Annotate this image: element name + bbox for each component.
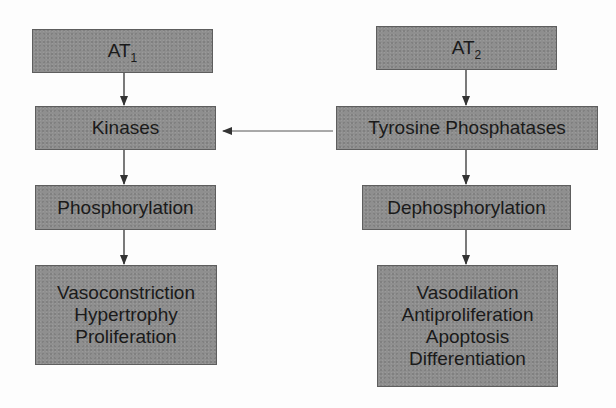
effect-line: Antiproliferation — [401, 304, 533, 326]
phosphorylation-box: Phosphorylation — [35, 185, 216, 230]
dephosphorylation-box: Dephosphorylation — [362, 185, 571, 230]
effect-line: Apoptosis — [426, 326, 509, 348]
at2-label: AT2 — [452, 37, 482, 59]
kinases-label: Kinases — [92, 117, 160, 139]
effect-line: Vasodilation — [416, 282, 518, 304]
effect-line: Differentiation — [409, 348, 526, 370]
at1-receptor-box: AT1 — [32, 29, 213, 73]
phosphorylation-label: Phosphorylation — [57, 197, 193, 219]
kinases-box: Kinases — [35, 106, 216, 150]
at2-effects-box: Vasodilation Antiproliferation Apoptosis… — [377, 265, 558, 387]
dephosphorylation-label: Dephosphorylation — [387, 197, 545, 219]
effect-line: Proliferation — [75, 326, 176, 348]
tyrosine-phosphatases-box: Tyrosine Phosphatases — [336, 106, 598, 150]
effect-line: Hypertrophy — [74, 304, 178, 326]
at1-effects-box: Vasoconstriction Hypertrophy Proliferati… — [35, 265, 217, 365]
tyrosine-phosphatases-label: Tyrosine Phosphatases — [368, 117, 566, 139]
effect-line: Vasoconstriction — [57, 282, 195, 304]
at2-receptor-box: AT2 — [376, 26, 557, 70]
at1-label: AT1 — [108, 40, 138, 62]
diagram-canvas: AT1 Kinases Phosphorylation Vasoconstric… — [0, 0, 616, 408]
